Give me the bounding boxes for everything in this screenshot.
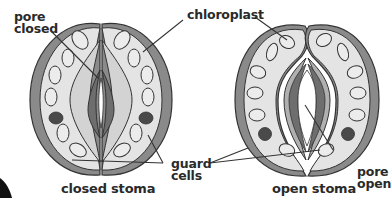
label-guard-cells-line2: cells <box>171 170 211 182</box>
open-stoma <box>235 25 379 176</box>
caption-open-stoma: open stoma <box>272 183 356 195</box>
label-pore-closed: pore closed <box>14 11 58 35</box>
label-guard-cells: guard cells <box>171 158 211 182</box>
leader-chloroplast-closed <box>143 20 183 52</box>
label-chloroplast: chloroplast <box>187 9 264 21</box>
open-nucleus-right <box>342 128 355 141</box>
closed-left-guard-cell <box>30 23 100 175</box>
caption-closed-stoma: closed stoma <box>61 183 155 195</box>
corner-artifact <box>0 178 12 198</box>
label-pore-open: pore open <box>357 166 391 190</box>
label-pore-closed-line2: closed <box>14 23 58 35</box>
closed-nucleus-right <box>139 112 153 124</box>
closed-nucleus-left <box>49 112 63 124</box>
stomata-diagram: pore closed chloroplast guard cells pore… <box>0 0 391 198</box>
open-nucleus-left <box>259 128 272 141</box>
label-pore-open-line2: open <box>357 178 391 190</box>
closed-right-guard-cell <box>102 23 172 175</box>
